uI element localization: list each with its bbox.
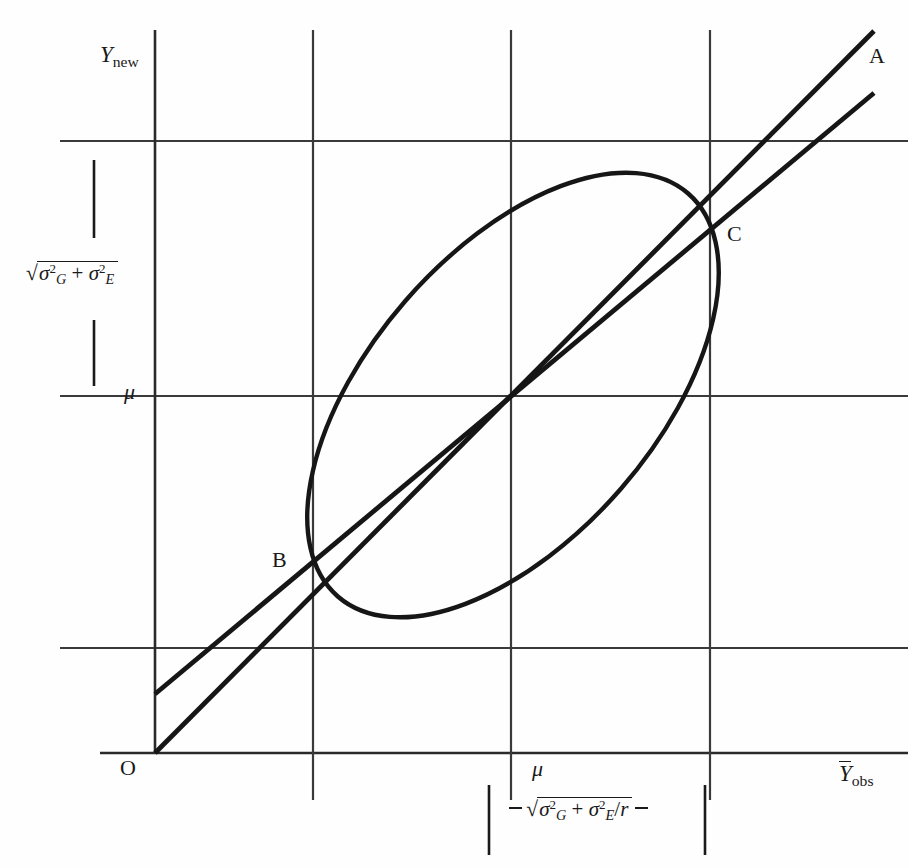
- sigma-e-symbol-x: σ: [589, 797, 599, 821]
- replicates-symbol: r: [620, 797, 628, 821]
- sigma-e-symbol: σ: [89, 261, 99, 285]
- dash-left-icon: [509, 807, 522, 809]
- point-label-b: B: [272, 549, 287, 571]
- origin-label: O: [120, 757, 136, 779]
- x-spread-annotation: √σ2G + σ2E/r: [506, 798, 650, 823]
- x-axis-label-symbol: Y: [839, 762, 852, 785]
- plus-operator-y: +: [72, 261, 84, 285]
- sigma-e-subscript: E: [106, 271, 115, 287]
- mu-y-label: μ: [124, 381, 135, 403]
- point-label-a: A: [869, 45, 885, 67]
- y-axis-label-subscript: new: [113, 53, 139, 70]
- point-label-c: C: [727, 223, 742, 245]
- sigma-g-subscript: G: [56, 271, 66, 287]
- plus-operator-x: +: [572, 797, 584, 821]
- sigma-g-symbol: σ: [39, 261, 49, 285]
- y-axis-label: Ynew: [100, 43, 139, 70]
- radical-body-x: σ2G + σ2E/r: [537, 798, 632, 823]
- mu-x-label: μ: [532, 758, 543, 780]
- sigma-e-subscript-x: E: [606, 807, 615, 823]
- y-spread-annotation: √σ2G + σ2E: [24, 262, 118, 287]
- x-axis-label: Yobs: [839, 762, 874, 789]
- radical-body-y: σ2G + σ2E: [37, 262, 118, 287]
- figure-container: Ynew Yobs O μ μ A B C √σ2G + σ2E √σ2G + …: [0, 0, 908, 868]
- x-axis-label-subscript: obs: [852, 772, 874, 789]
- sigma-g-subscript-x: G: [556, 807, 566, 823]
- radical-group-x: √σ2G + σ2E/r: [524, 798, 632, 823]
- y-axis-label-symbol: Y: [100, 42, 113, 67]
- line-regression: [155, 93, 874, 694]
- dash-right-icon: [635, 807, 648, 809]
- sigma-g-symbol-x: σ: [539, 797, 549, 821]
- radical-group-y: √σ2G + σ2E: [24, 262, 118, 287]
- figure-canvas: [0, 0, 908, 868]
